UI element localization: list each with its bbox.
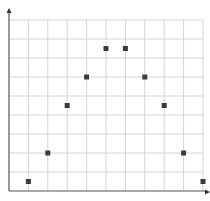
- scatter-chart: [0, 0, 210, 201]
- data-point-square-icon: [26, 179, 31, 184]
- data-point-square-icon: [201, 179, 206, 184]
- data-point-square-icon: [104, 46, 109, 51]
- x-axis-arrow-icon: [205, 190, 210, 195]
- y-axis-arrow-icon: [7, 8, 12, 13]
- data-point-square-icon: [84, 75, 89, 80]
- data-point-square-icon: [181, 151, 186, 156]
- data-point-square-icon: [65, 103, 70, 108]
- data-point-square-icon: [142, 75, 147, 80]
- grid-lines: [9, 20, 203, 191]
- data-point-square-icon: [162, 103, 167, 108]
- data-point-square-icon: [45, 151, 50, 156]
- data-point-square-icon: [123, 46, 128, 51]
